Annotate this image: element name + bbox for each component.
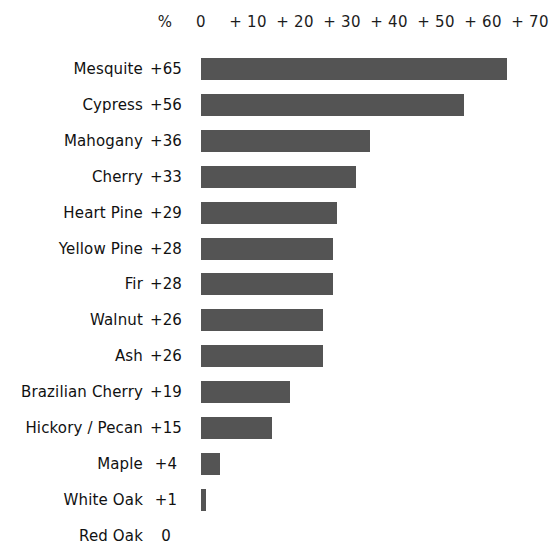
- bar-track: [201, 94, 464, 116]
- bar-track: [201, 489, 206, 511]
- category-label: Mesquite: [0, 57, 143, 81]
- bar-track: [201, 345, 323, 367]
- bar: [201, 130, 370, 152]
- bar: [201, 58, 507, 80]
- value-label: +19: [147, 380, 185, 404]
- bar-track: [201, 130, 370, 152]
- category-label: Walnut: [0, 308, 143, 332]
- value-label: +26: [147, 344, 185, 368]
- value-label: +56: [147, 93, 185, 117]
- bar: [201, 489, 206, 511]
- category-label: Brazilian Cherry: [0, 380, 143, 404]
- value-label: +33: [147, 165, 185, 189]
- bar-track: [201, 417, 272, 439]
- bar: [201, 345, 323, 367]
- bar: [201, 273, 333, 295]
- chart-row: White Oak+1: [0, 488, 557, 518]
- bar: [201, 94, 464, 116]
- category-label: Cypress: [0, 93, 143, 117]
- bar: [201, 309, 323, 331]
- value-label: 0: [147, 524, 185, 548]
- category-label: Maple: [0, 452, 143, 476]
- value-label: +26: [147, 308, 185, 332]
- category-label: Mahogany: [0, 129, 143, 153]
- value-label: +29: [147, 201, 185, 225]
- chart-row: Red Oak0: [0, 524, 557, 551]
- bar: [201, 417, 272, 439]
- chart-row: Walnut+26: [0, 308, 557, 338]
- bar: [201, 453, 220, 475]
- chart-row: Cherry+33: [0, 165, 557, 195]
- value-label: +1: [147, 488, 185, 512]
- bar-track: [201, 166, 356, 188]
- value-label: +28: [147, 237, 185, 261]
- bar-track: [201, 238, 333, 260]
- chart-row: Maple+4: [0, 452, 557, 482]
- bar: [201, 166, 356, 188]
- category-label: White Oak: [0, 488, 143, 512]
- bar: [201, 381, 290, 403]
- chart-row: Mesquite+65: [0, 57, 557, 87]
- chart-rows: Mesquite+65Cypress+56Mahogany+36Cherry+3…: [0, 0, 557, 551]
- value-label: +65: [147, 57, 185, 81]
- value-label: +4: [147, 452, 185, 476]
- chart-row: Fir+28: [0, 272, 557, 302]
- value-label: +28: [147, 272, 185, 296]
- bar-track: [201, 202, 337, 224]
- bar-track: [201, 273, 333, 295]
- bar-track: [201, 309, 323, 331]
- bar-track: [201, 381, 290, 403]
- category-label: Heart Pine: [0, 201, 143, 225]
- chart-row: Hickory / Pecan+15: [0, 416, 557, 446]
- value-label: +36: [147, 129, 185, 153]
- horizontal-bar-chart: % 0+ 10+ 20+ 30+ 40+ 50+ 60+ 70 Mesquite…: [0, 0, 557, 551]
- category-label: Red Oak: [0, 524, 143, 548]
- bar: [201, 238, 333, 260]
- category-label: Fir: [0, 272, 143, 296]
- chart-row: Heart Pine+29: [0, 201, 557, 231]
- chart-row: Cypress+56: [0, 93, 557, 123]
- chart-row: Mahogany+36: [0, 129, 557, 159]
- bar: [201, 202, 337, 224]
- chart-row: Brazilian Cherry+19: [0, 380, 557, 410]
- chart-row: Ash+26: [0, 344, 557, 374]
- category-label: Yellow Pine: [0, 237, 143, 261]
- bar-track: [201, 58, 507, 80]
- category-label: Hickory / Pecan: [0, 416, 143, 440]
- category-label: Cherry: [0, 165, 143, 189]
- bar-track: [201, 453, 220, 475]
- category-label: Ash: [0, 344, 143, 368]
- chart-row: Yellow Pine+28: [0, 237, 557, 267]
- value-label: +15: [147, 416, 185, 440]
